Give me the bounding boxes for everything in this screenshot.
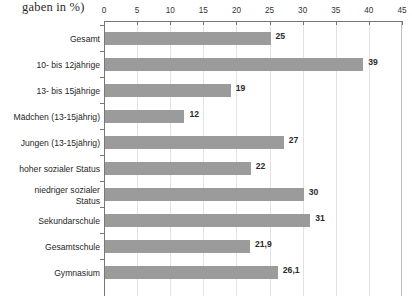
bar-row: 21,9 xyxy=(104,234,402,260)
bar[interactable] xyxy=(105,240,250,253)
y-axis-tick-mark xyxy=(100,51,104,52)
bar-value-label: 19 xyxy=(236,83,246,93)
bar-row: 26,1 xyxy=(104,260,402,286)
category-label: hoher sozialer Status xyxy=(0,164,100,175)
x-axis-tick-mark xyxy=(402,21,403,25)
bar-value-label: 31 xyxy=(315,213,325,223)
y-axis-tick-mark xyxy=(100,155,104,156)
x-axis-tick-label: 35 xyxy=(331,6,340,15)
bar[interactable] xyxy=(105,32,271,45)
category-label: Gesamtschule xyxy=(0,242,100,253)
x-axis-tick-mark xyxy=(236,21,237,25)
bar-row: 30 xyxy=(104,182,402,208)
plot-area: 253919122722303121,926,1 xyxy=(104,22,402,296)
category-label: Sekundarschule xyxy=(0,216,100,227)
bar[interactable] xyxy=(105,266,278,279)
x-axis-tick-label: 20 xyxy=(232,6,241,15)
y-axis-tick-mark xyxy=(100,129,104,130)
x-axis-tick-label: 0 xyxy=(102,6,107,15)
category-label: Gesamt xyxy=(0,34,100,45)
x-axis-tick-label: 40 xyxy=(364,6,373,15)
bar-row: 31 xyxy=(104,208,402,234)
category-label: Mädchen (13-15jährig) xyxy=(0,112,100,123)
x-axis-tick-labels: 051015202530354045 xyxy=(0,6,412,19)
bar-value-label: 22 xyxy=(256,161,266,171)
bar[interactable] xyxy=(105,136,284,149)
bar-row: 39 xyxy=(104,52,402,78)
y-axis-tick-mark xyxy=(100,181,104,182)
x-axis-tick-label: 10 xyxy=(166,6,175,15)
bar-value-label: 27 xyxy=(289,135,299,145)
bar[interactable] xyxy=(105,214,310,227)
bar-row: 22 xyxy=(104,156,402,182)
x-axis-tick-label: 30 xyxy=(298,6,307,15)
bar-row: 12 xyxy=(104,104,402,130)
x-axis-tick-mark xyxy=(270,21,271,25)
bar-row: 25 xyxy=(104,26,402,52)
x-axis-tick-mark xyxy=(369,21,370,25)
bar[interactable] xyxy=(105,162,251,175)
y-axis-tick-mark xyxy=(100,233,104,234)
category-label: Jungen (13-15jährig) xyxy=(0,138,100,149)
bar[interactable] xyxy=(105,84,231,97)
bar-value-label: 26,1 xyxy=(283,265,300,275)
x-axis-tick-label: 45 xyxy=(397,6,406,15)
y-axis-tick-mark xyxy=(100,103,104,104)
bar-row: 27 xyxy=(104,130,402,156)
bar[interactable] xyxy=(105,188,304,201)
bar-chart: gaben in %) 051015202530354045 253919122… xyxy=(0,0,412,296)
bar-value-label: 39 xyxy=(368,57,378,67)
x-axis-tick-label: 5 xyxy=(135,6,140,15)
bar-row: 19 xyxy=(104,78,402,104)
x-axis-tick-mark xyxy=(104,21,105,25)
x-axis-tick-mark xyxy=(170,21,171,25)
bar-value-label: 12 xyxy=(189,109,199,119)
bar-value-label: 21,9 xyxy=(255,239,272,249)
x-axis-tick-mark xyxy=(303,21,304,25)
x-axis-tick-label: 25 xyxy=(265,6,274,15)
bar[interactable] xyxy=(105,110,184,123)
bar-value-label: 30 xyxy=(309,187,319,197)
category-label: 10- bis 12jährige xyxy=(0,60,100,71)
x-axis-tick-label: 15 xyxy=(199,6,208,15)
bar[interactable] xyxy=(105,58,363,71)
bar-value-label: 25 xyxy=(276,31,286,41)
x-axis-tick-mark xyxy=(203,21,204,25)
category-label: niedriger sozialer Status xyxy=(28,185,100,206)
x-axis-tick-mark xyxy=(137,21,138,25)
y-axis-tick-mark xyxy=(100,25,104,26)
x-axis-tick-mark xyxy=(336,21,337,25)
category-label: 13- bis 15jährige xyxy=(0,86,100,97)
y-axis-tick-mark xyxy=(100,259,104,260)
y-axis-tick-mark xyxy=(100,77,104,78)
category-label: Gymnasium xyxy=(0,268,100,279)
y-axis-tick-mark xyxy=(100,207,104,208)
